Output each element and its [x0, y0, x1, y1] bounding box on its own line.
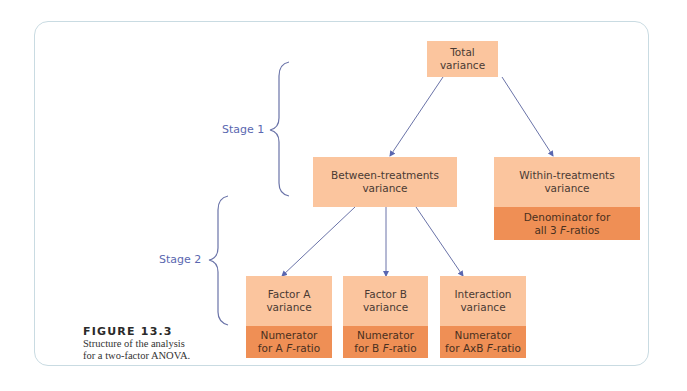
- figure-caption-line-1: Structure of the analysis: [83, 338, 253, 350]
- figure-caption: FIGURE 13.3 Structure of the analysis fo…: [83, 325, 253, 361]
- node-total-variance: Total variance: [427, 41, 498, 77]
- node-factor-b-role: Numerator for B F-ratio: [343, 326, 428, 358]
- node-within-treatments-title: Within-treatments variance: [494, 157, 640, 207]
- node-within-treatments-role: Denominator for all 3 F-ratios: [494, 207, 640, 240]
- figure-label: FIGURE 13.3: [83, 325, 253, 338]
- node-interaction-variance: Interaction variance Numerator for AxB F…: [440, 276, 526, 358]
- stage-2-label: Stage 2: [159, 253, 201, 266]
- node-between-treatments-title: Between-treatments variance: [313, 157, 457, 207]
- figure-caption-line-2: for a two-factor ANOVA.: [83, 350, 253, 362]
- node-interaction-role: Numerator for AxB F-ratio: [440, 326, 526, 358]
- interaction-role-suffix: -ratio: [493, 342, 521, 354]
- node-factor-b-variance: Factor B variance Numerator for B F-rati…: [343, 276, 428, 358]
- node-factor-b-title: Factor B variance: [343, 276, 428, 326]
- stage-1-label: Stage 1: [222, 123, 264, 136]
- node-within-treatments-variance: Within-treatments variance Denominator f…: [494, 157, 640, 240]
- node-total-variance-title: Total variance: [427, 41, 498, 77]
- node-interaction-title: Interaction variance: [440, 276, 526, 326]
- factor-a-role-suffix: -ratio: [292, 342, 320, 354]
- node-factor-a-role: Numerator for A F-ratio: [246, 326, 332, 358]
- factor-b-role-suffix: -ratio: [389, 342, 417, 354]
- node-factor-a-title: Factor A variance: [246, 276, 332, 326]
- node-between-treatments-variance: Between-treatments variance: [313, 157, 457, 207]
- within-role-suffix: -ratios: [566, 224, 599, 236]
- node-factor-a-variance: Factor A variance Numerator for A F-rati…: [246, 276, 332, 358]
